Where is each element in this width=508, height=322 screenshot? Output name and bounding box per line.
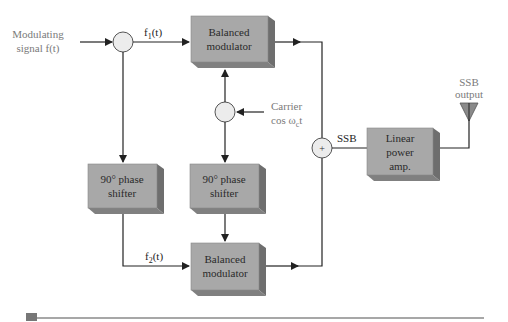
balanced-modulator-top: Balanced modulator xyxy=(191,16,275,68)
svg-text:+: + xyxy=(319,143,325,154)
svg-text:modulator: modulator xyxy=(206,40,252,52)
balanced-modulator-bottom: Balanced modulator xyxy=(191,243,266,296)
svg-text:Carrier: Carrier xyxy=(271,100,302,112)
svg-text:cos ωct: cos ωct xyxy=(271,114,302,129)
svg-text:90° phase: 90° phase xyxy=(100,173,143,185)
svg-text:power: power xyxy=(386,146,414,158)
phase-shifter-middle: 90° phase shifter xyxy=(190,164,266,214)
svg-text:Modulating: Modulating xyxy=(12,28,64,40)
rule-square xyxy=(26,313,37,321)
linear-power-amp: Linear power amp. xyxy=(367,128,440,181)
f2-label: f2(t) xyxy=(145,250,163,265)
bottom-bus-line xyxy=(296,158,322,266)
splitter-node xyxy=(113,32,133,52)
summer-node: + xyxy=(312,138,332,158)
carrier-node xyxy=(215,102,235,122)
svg-text:f1(t): f1(t) xyxy=(144,26,162,41)
phase-shifter-left: 90° phase shifter xyxy=(88,164,164,214)
modulating-signal-label: Modulating signal f(t) xyxy=(12,28,64,55)
svg-text:shifter: shifter xyxy=(108,187,136,199)
svg-text:f2(t): f2(t) xyxy=(145,250,163,265)
svg-text:signal f(t): signal f(t) xyxy=(16,42,59,55)
svg-text:SSB: SSB xyxy=(459,76,479,88)
svg-text:Linear: Linear xyxy=(386,132,415,144)
svg-text:shifter: shifter xyxy=(210,187,238,199)
svg-text:output: output xyxy=(455,88,483,100)
ssb-label: SSB xyxy=(337,132,357,144)
svg-text:amp.: amp. xyxy=(389,160,411,172)
ssb-output-label: SSB output xyxy=(455,76,483,100)
antenna-icon xyxy=(460,103,478,121)
amp-to-antenna xyxy=(440,116,469,148)
svg-text:Balanced: Balanced xyxy=(205,253,246,265)
f1-label: f1(t) xyxy=(144,26,162,41)
carrier-label: Carrier cos ωct xyxy=(271,100,302,129)
svg-text:Balanced: Balanced xyxy=(209,26,250,38)
svg-text:90° phase: 90° phase xyxy=(202,173,245,185)
svg-text:modulator: modulator xyxy=(202,267,248,279)
ssb-block-diagram: Modulating signal f(t) f1(t) Balanced mo… xyxy=(0,0,508,322)
